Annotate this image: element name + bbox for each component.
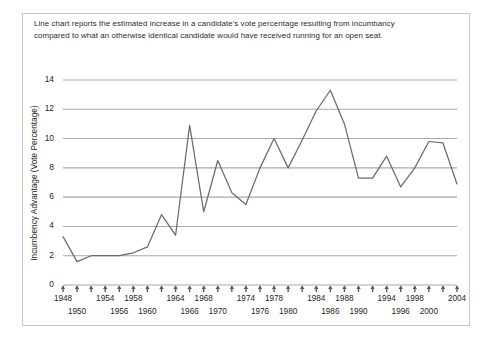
figure-caption: Line chart reports the estimated increas… <box>34 18 430 41</box>
figure-frame <box>22 13 470 326</box>
